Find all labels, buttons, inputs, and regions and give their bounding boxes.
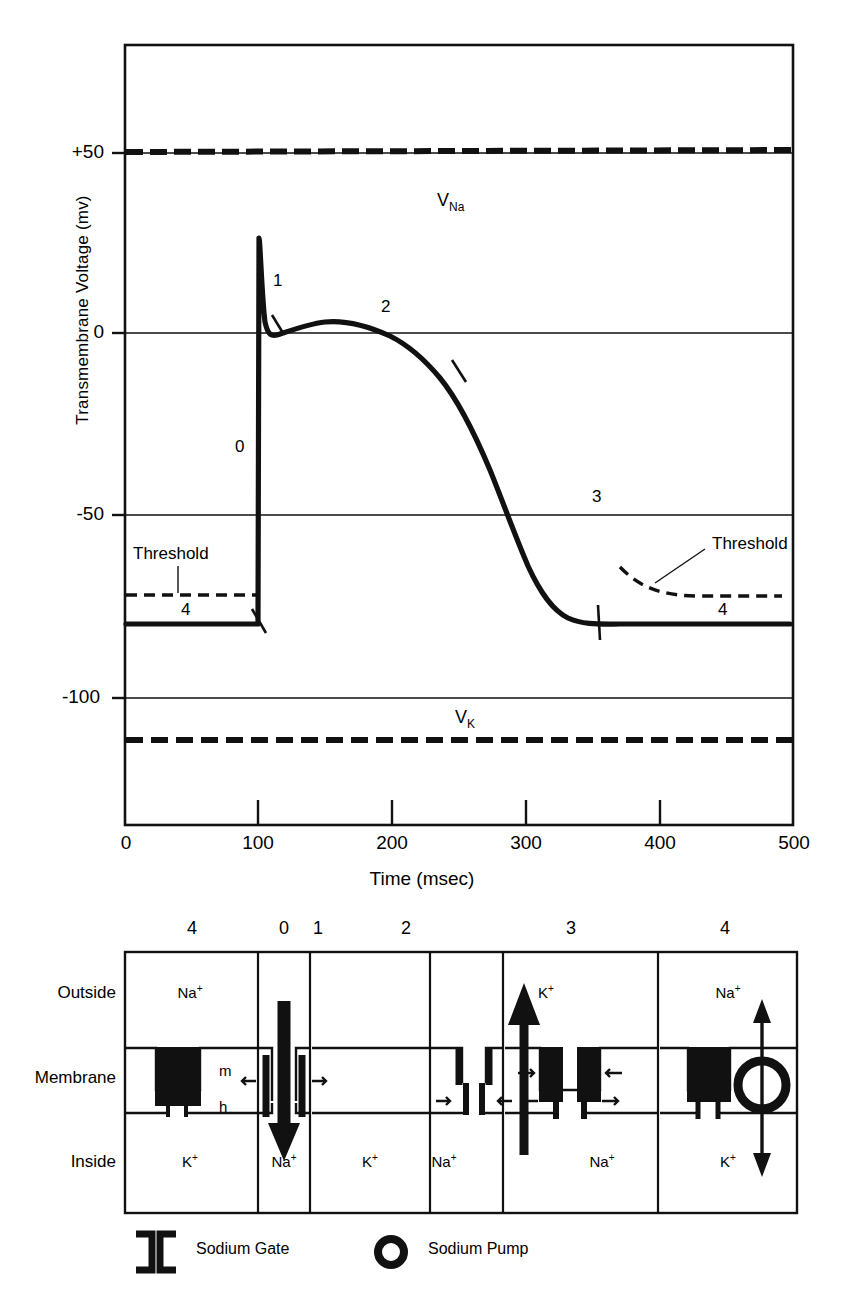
ion-charge: + — [291, 1152, 297, 1163]
ion-text: Na — [589, 1153, 608, 1170]
gate-label-m: m — [219, 1062, 232, 1079]
phase-label-3: 3 — [592, 487, 601, 507]
y-axis-title-wrap: Transmembrane Voltage (mv) — [56, 300, 256, 328]
row-label-membrane: Membrane — [0, 1068, 116, 1088]
inside-ion-col4l: K+ — [160, 1152, 220, 1170]
membrane-colnum-3: 2 — [381, 918, 431, 939]
ion-text: Na — [271, 1153, 290, 1170]
membrane-colnum-4: 3 — [546, 918, 596, 939]
action-potential-chart — [0, 0, 844, 880]
inside-ion-col3: Na+ — [572, 1152, 632, 1170]
y-tick-minus100: -100 — [38, 686, 100, 708]
y-axis-ticks — [112, 153, 125, 698]
row-label-outside: Outside — [8, 983, 116, 1003]
ion-text: Na — [431, 1153, 450, 1170]
x-tick-200: 200 — [362, 832, 422, 854]
x-tick-300: 300 — [496, 832, 556, 854]
sodium-gate-icon-col4r-m — [688, 1048, 730, 1101]
ion-text: Na — [177, 984, 196, 1001]
sodium-gate-icon-legend — [136, 1234, 176, 1270]
v-k-letter: V — [455, 707, 467, 727]
threshold-label-right: Threshold — [712, 534, 788, 554]
membrane-panel — [0, 905, 844, 1295]
inside-ion-col0: Na+ — [254, 1152, 314, 1170]
v-na-letter: V — [437, 190, 449, 210]
outside-ion-col4r: Na+ — [698, 983, 758, 1001]
gate-label-h: h — [219, 1098, 227, 1115]
x-tick-100: 100 — [228, 832, 288, 854]
ion-text: K — [182, 1153, 192, 1170]
v-k-label: VK — [455, 707, 475, 731]
threshold-label-left: Threshold — [133, 544, 209, 564]
ion-charge: + — [197, 983, 203, 994]
ion-text: K — [538, 984, 548, 1001]
ion-charge: + — [451, 1152, 457, 1163]
phase-label-4-right: 4 — [718, 600, 727, 620]
ion-text: K — [720, 1153, 730, 1170]
phase-label-1: 1 — [273, 271, 282, 291]
ion-text: Na — [715, 984, 734, 1001]
y-axis-title: Transmembrane Voltage (mv) — [73, 195, 93, 424]
x-tick-500: 500 — [764, 832, 824, 854]
v-na-label: VNa — [437, 190, 464, 214]
membrane-colnum-0: 4 — [167, 918, 217, 939]
ion-charge: + — [735, 983, 741, 994]
sodium-pump-icon-legend — [378, 1239, 404, 1265]
legend-label-sodium-gate: Sodium Gate — [196, 1240, 289, 1258]
inside-ion-col2-k: K+ — [340, 1152, 400, 1170]
ion-charge: + — [609, 1152, 615, 1163]
inside-ion-col4r: K+ — [698, 1152, 758, 1170]
figure-action-potential: +50 0 -50 -100 Transmembrane Voltage (mv… — [0, 0, 844, 1295]
membrane-colnum-5: 4 — [700, 918, 750, 939]
ion-charge: + — [548, 983, 554, 994]
x-tick-0: 0 — [96, 832, 156, 854]
ion-charge: + — [192, 1152, 198, 1163]
row-label-inside: Inside — [8, 1152, 116, 1172]
y-tick-minus50: -50 — [42, 503, 104, 525]
legend-label-sodium-pump: Sodium Pump — [428, 1240, 529, 1258]
x-axis-title: Time (msec) — [0, 868, 844, 890]
phase-label-2: 2 — [381, 297, 390, 317]
ion-charge: + — [730, 1152, 736, 1163]
outside-ion-col3: K+ — [516, 983, 576, 1001]
ion-text: K — [362, 1153, 372, 1170]
v-na-subscript: Na — [449, 200, 464, 214]
phase-label-0: 0 — [235, 437, 244, 457]
y-tick-plus50: +50 — [42, 141, 104, 163]
x-tick-400: 400 — [630, 832, 690, 854]
sodium-gate-icon-col4-m — [156, 1048, 200, 1105]
membrane-colnum-2: 1 — [293, 918, 343, 939]
inside-ion-col2-na: Na+ — [414, 1152, 474, 1170]
v-k-subscript: K — [467, 717, 475, 731]
outside-ion-col4l: Na+ — [160, 983, 220, 1001]
phase-label-4-left: 4 — [181, 600, 190, 620]
ion-charge: + — [372, 1152, 378, 1163]
